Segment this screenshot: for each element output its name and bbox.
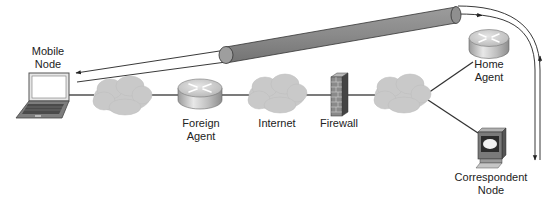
flow-to-mobile-node — [76, 50, 226, 73]
correspondent-node-label-line1: Correspondent — [451, 171, 531, 184]
foreign-agent-label-line2: Agent — [180, 130, 222, 143]
internet-label-line1: Internet — [253, 117, 301, 130]
firewall-icon — [331, 73, 348, 116]
home-agent-label: Home Agent — [469, 58, 509, 83]
mobile-node-label-line2: Node — [28, 58, 68, 71]
firewall-label: Firewall — [315, 117, 363, 130]
router-icon — [178, 79, 222, 109]
mobile-node-label-line1: Mobile — [28, 45, 68, 58]
tunnel-pipe-icon — [219, 7, 461, 64]
correspondent-node-label-line2: Node — [451, 184, 531, 197]
internet-label: Internet — [253, 117, 301, 130]
laptop-icon — [16, 73, 69, 118]
flow-tunnel-exit-arrowhead — [476, 15, 482, 16]
mobile-node-label: Mobile Node — [28, 45, 68, 70]
network-diagram: Mobile Node Foreign Agent Internet Firew… — [0, 0, 544, 203]
traffic-flows — [76, 6, 540, 160]
cloud-icon — [93, 76, 152, 115]
home-agent-label-line2: Agent — [469, 71, 509, 84]
link-cloud2-correspondent — [428, 100, 478, 133]
firewall-label-line1: Firewall — [315, 117, 363, 130]
foreign-agent-label: Foreign Agent — [180, 117, 222, 142]
link-cloud2-home-agent — [428, 62, 473, 93]
correspondent-node-label: Correspondent Node — [451, 171, 531, 196]
foreign-agent-label-line1: Foreign — [180, 117, 222, 130]
router-icon — [469, 30, 509, 59]
workstation-icon — [476, 128, 506, 168]
cloud-icon — [374, 74, 431, 113]
home-agent-label-line1: Home — [469, 58, 509, 71]
cloud-icon — [248, 74, 307, 113]
